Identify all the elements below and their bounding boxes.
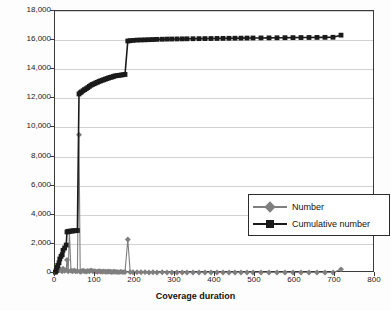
x-tick-label: 200 <box>114 276 154 284</box>
y-tick-label: 6,000 <box>5 181 51 189</box>
legend-item-number: Number <box>253 198 385 215</box>
x-tick-mark <box>94 272 95 276</box>
y-tick-mark <box>50 97 54 98</box>
x-tick-label: 300 <box>154 276 194 284</box>
x-axis-title: Coverage duration <box>0 291 391 301</box>
x-tick-mark <box>214 272 215 276</box>
y-tick-mark <box>50 243 54 244</box>
x-tick-label: 700 <box>314 276 354 284</box>
y-tick-mark <box>50 185 54 186</box>
x-tick-label: 500 <box>234 276 274 284</box>
y-tick-label: 10,000 <box>5 122 51 130</box>
y-tick-mark <box>50 68 54 69</box>
chart-container: Frequency Coverage duration Number Cumul… <box>0 0 391 311</box>
y-tick-mark <box>50 156 54 157</box>
x-tick-mark <box>254 272 255 276</box>
x-tick-mark <box>374 272 375 276</box>
x-tick-mark <box>54 272 55 276</box>
x-tick-mark <box>134 272 135 276</box>
series-cumulative-number <box>53 33 343 275</box>
chart-legend: Number Cumulative number <box>248 194 390 236</box>
legend-item-cumulative-number: Cumulative number <box>253 215 385 232</box>
x-tick-mark <box>174 272 175 276</box>
x-tick-label: 400 <box>194 276 234 284</box>
y-tick-mark <box>50 214 54 215</box>
y-tick-mark <box>50 39 54 40</box>
y-tick-mark <box>50 10 54 11</box>
x-tick-label: 600 <box>274 276 314 284</box>
y-tick-label: 0 <box>5 268 51 276</box>
x-tick-label: 0 <box>34 276 74 284</box>
square-marker-icon <box>266 220 274 228</box>
x-tick-mark <box>294 272 295 276</box>
y-tick-label: 18,000 <box>5 6 51 14</box>
legend-swatch-number <box>253 201 287 213</box>
y-tick-label: 12,000 <box>5 93 51 101</box>
diamond-marker-icon <box>264 201 275 212</box>
y-tick-label: 8,000 <box>5 152 51 160</box>
y-tick-label: 14,000 <box>5 64 51 72</box>
x-tick-label: 800 <box>354 276 391 284</box>
legend-swatch-cumulative <box>253 218 287 230</box>
y-tick-label: 2,000 <box>5 239 51 247</box>
legend-label-number: Number <box>287 202 324 212</box>
y-tick-mark <box>50 126 54 127</box>
y-tick-label: 4,000 <box>5 210 51 218</box>
x-tick-label: 100 <box>74 276 114 284</box>
x-tick-mark <box>334 272 335 276</box>
y-tick-label: 16,000 <box>5 35 51 43</box>
plot-area: Number Cumulative number <box>54 10 374 272</box>
legend-label-cumulative-number: Cumulative number <box>287 219 370 229</box>
